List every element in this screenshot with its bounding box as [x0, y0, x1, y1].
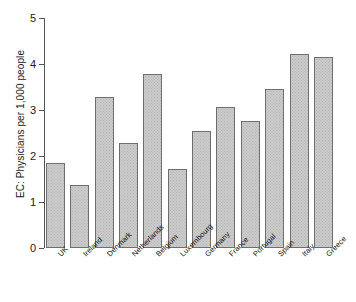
y-tick-label: 2: [30, 151, 36, 162]
y-axis-spine: [44, 18, 45, 248]
y-tick-mark: [39, 248, 44, 249]
bar: [46, 163, 65, 248]
y-tick-label: 1: [30, 197, 36, 208]
y-tick-mark: [39, 202, 44, 203]
y-tick-mark: [39, 18, 44, 19]
y-tick-label: 3: [30, 105, 36, 116]
bar: [290, 54, 309, 248]
y-tick-label: 4: [30, 59, 36, 70]
y-tick-mark: [39, 110, 44, 111]
y-tick-mark: [39, 64, 44, 65]
bar: [70, 185, 89, 248]
y-axis-title: EC: Physicians per 1,000 people: [14, 0, 28, 248]
bar-chart-figure: EC: Physicians per 1,000 people 012345 U…: [0, 0, 356, 302]
y-tick-label: 0: [30, 243, 36, 254]
bar: [95, 97, 114, 248]
bar: [216, 107, 235, 248]
bar: [241, 121, 260, 248]
y-tick-mark: [39, 156, 44, 157]
bar: [314, 57, 333, 248]
bar: [265, 89, 284, 248]
y-tick-label: 5: [30, 13, 36, 24]
plot-area: 012345 UKIrelandDenmarkNetherlandsBelgiu…: [44, 18, 344, 248]
